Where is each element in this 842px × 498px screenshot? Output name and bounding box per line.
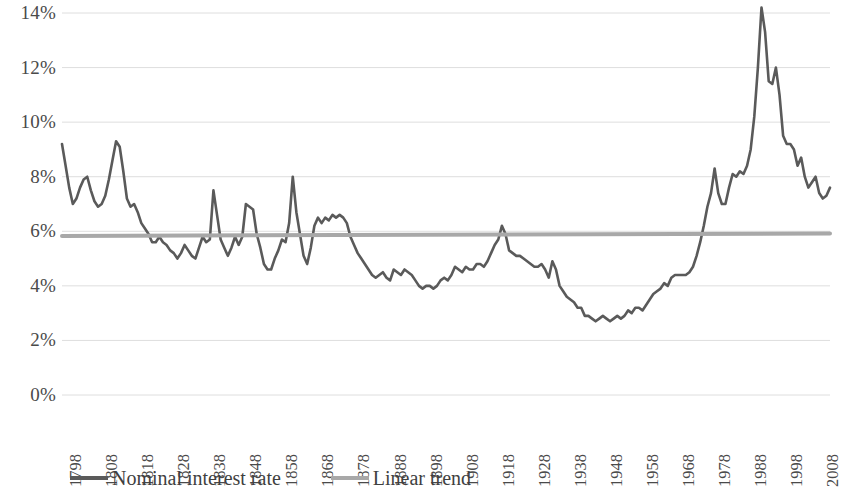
y-axis-tick-label: 2%: [0, 330, 56, 349]
y-axis-tick-label: 4%: [0, 276, 56, 295]
y-axis-tick-label: 10%: [0, 112, 56, 131]
legend-item-label: Nominal interest rate: [112, 468, 281, 488]
plot-area: [62, 13, 830, 395]
series-line-linear-trend: [62, 233, 830, 235]
y-axis-tick-label: 8%: [0, 167, 56, 186]
data-series-layer: [62, 13, 830, 395]
legend-swatch-icon: [70, 476, 108, 480]
chart-legend: Nominal interest rate Linear trend: [0, 462, 826, 494]
series-line-nominal-interest-rate: [62, 8, 830, 322]
y-axis-tick-label: 12%: [0, 58, 56, 77]
legend-swatch-icon: [331, 476, 369, 480]
y-axis-tick-label: 6%: [0, 221, 56, 240]
y-axis-tick-label: 14%: [0, 3, 56, 22]
x-axis-tick-text: 2008: [825, 454, 842, 487]
legend-item-linear-trend[interactable]: Linear trend: [331, 468, 471, 488]
x-axis-tick-label: 2008: [825, 454, 842, 487]
legend-item-label: Linear trend: [373, 468, 471, 488]
y-axis-tick-label: 0%: [0, 385, 56, 404]
y-axis: 14%12%10%8%6%4%2%0%: [0, 0, 56, 395]
legend-item-nominal-interest-rate[interactable]: Nominal interest rate: [70, 468, 281, 488]
x-axis: 1798180818181828183818481858186818781888…: [62, 398, 830, 456]
